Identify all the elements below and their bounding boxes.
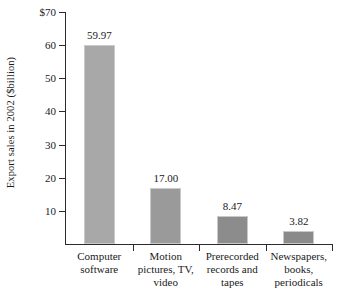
y-tick-mark — [59, 178, 66, 179]
x-axis-category-label: Newspapers,books,periodicals — [266, 250, 333, 289]
bar-value-label: 3.82 — [269, 216, 329, 227]
y-tick-mark — [59, 45, 66, 46]
y-tick-label: 60 — [16, 40, 56, 51]
x-axis-category-label-line: software — [66, 263, 133, 276]
x-axis-category-label-line: Motion — [133, 250, 200, 263]
x-axis-category-label-line: records and — [199, 263, 266, 276]
y-tick-label: 40 — [16, 106, 56, 117]
y-tick-mark — [59, 111, 66, 112]
x-axis-category-label-line: pictures, TV, — [133, 263, 200, 276]
x-axis-category-label-line: video — [133, 276, 200, 289]
x-axis-separator — [332, 245, 333, 251]
bar-value-label: 17.00 — [136, 173, 196, 184]
bar — [84, 45, 115, 244]
x-axis-category-label-line: tapes — [199, 276, 266, 289]
y-tick-mark — [59, 211, 66, 212]
bar — [283, 231, 314, 244]
bar-chart: Export sales in 2002 ($billion) $7060504… — [0, 0, 339, 297]
x-axis-category-label-line: periodicals — [266, 276, 333, 289]
y-tick-label: 50 — [16, 73, 56, 84]
y-tick-mark — [59, 12, 66, 13]
x-axis-category-label: Motionpictures, TV,video — [133, 250, 200, 289]
x-axis-category-label-line: Computer — [66, 250, 133, 263]
bar — [217, 216, 248, 244]
y-tick-label: 30 — [16, 140, 56, 151]
bar-value-label: 8.47 — [202, 201, 262, 212]
plot-area — [66, 12, 332, 244]
x-axis-category-label-line: Prerecorded — [199, 250, 266, 263]
y-tick-label: 20 — [16, 173, 56, 184]
y-tick-label: 10 — [16, 206, 56, 217]
x-axis-category-label: Computersoftware — [66, 250, 133, 276]
y-tick-mark — [59, 145, 66, 146]
y-tick-mark — [59, 78, 66, 79]
y-axis-title-text: Export sales in 2002 ($billion) — [6, 56, 17, 187]
x-axis-category-label-line: Newspapers, — [266, 250, 333, 263]
x-axis-category-label: Prerecordedrecords andtapes — [199, 250, 266, 289]
x-axis-category-label-line: books, — [266, 263, 333, 276]
bar — [150, 188, 181, 244]
y-tick-label: $70 — [16, 7, 56, 18]
bar-value-label: 59.97 — [69, 30, 129, 41]
